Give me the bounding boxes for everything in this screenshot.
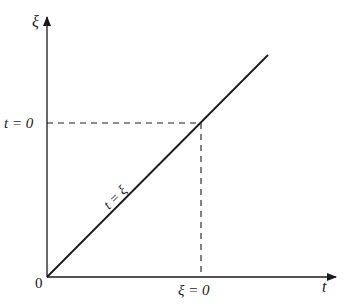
origin-label: 0	[35, 275, 43, 291]
diagram-canvas: ξ t 0 t = 0 ξ = 0 t = ξ	[0, 0, 350, 308]
horizontal-axis-label: t	[322, 278, 327, 295]
diagonal-line	[47, 55, 268, 277]
t-zero-label: t = 0	[4, 115, 34, 131]
xi-zero-label: ξ = 0	[178, 282, 210, 298]
diagonal-label: t = ξ	[101, 183, 130, 212]
vertical-axis-label: ξ	[32, 13, 39, 30]
